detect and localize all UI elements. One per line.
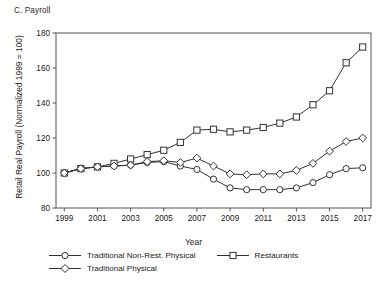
x-tick-label-1999: 1999 bbox=[55, 214, 74, 223]
chart-legend: Traditional Non-Rest. Physical Restauran… bbox=[48, 249, 378, 275]
data-point-diamond bbox=[243, 171, 251, 179]
data-point-square bbox=[244, 127, 250, 133]
data-point-diamond bbox=[309, 159, 317, 167]
series-line-restaurants bbox=[64, 47, 362, 173]
data-point-square bbox=[277, 120, 283, 126]
data-point-diamond bbox=[359, 134, 367, 142]
data-point-square bbox=[144, 152, 150, 158]
data-point-diamond bbox=[193, 154, 201, 162]
x-tick-label-2001: 2001 bbox=[88, 214, 107, 223]
x-tick-label-2007: 2007 bbox=[188, 214, 207, 223]
data-point-square bbox=[293, 114, 299, 120]
y-tick-label-140: 140 bbox=[36, 99, 50, 108]
data-point-square bbox=[177, 139, 183, 145]
x-tick-label-2013: 2013 bbox=[287, 214, 306, 223]
data-point-square bbox=[210, 126, 216, 132]
data-point-diamond bbox=[292, 166, 300, 174]
square-marker-icon bbox=[216, 250, 250, 261]
data-point-circle bbox=[244, 187, 250, 193]
data-point-circle bbox=[343, 166, 349, 172]
x-tick-label-2003: 2003 bbox=[121, 214, 140, 223]
data-point-diamond bbox=[259, 170, 267, 178]
y-tick-label-80: 80 bbox=[41, 204, 51, 213]
data-point-circle bbox=[326, 172, 332, 178]
data-point-square bbox=[326, 88, 332, 94]
x-tick-label-2005: 2005 bbox=[155, 214, 174, 223]
y-tick-label-160: 160 bbox=[36, 64, 50, 73]
data-point-diamond bbox=[226, 170, 234, 178]
data-point-square bbox=[194, 127, 200, 133]
legend-row-1: Traditional Non-Rest. Physical Restauran… bbox=[48, 249, 378, 262]
data-point-square bbox=[161, 147, 167, 153]
x-tick-label-2017: 2017 bbox=[354, 214, 373, 223]
legend-item-restaurants: Restaurants bbox=[216, 250, 299, 261]
data-point-diamond bbox=[326, 147, 334, 155]
data-point-circle bbox=[293, 185, 299, 191]
data-point-circle bbox=[260, 187, 266, 193]
data-point-diamond bbox=[276, 170, 284, 178]
x-axis-label: Year bbox=[0, 237, 387, 247]
circle-marker-icon bbox=[48, 250, 82, 261]
chart-figure: C. Payroll Retail Real Payroll (Normaliz… bbox=[0, 0, 387, 289]
legend-label-restaurants: Restaurants bbox=[255, 251, 299, 260]
y-tick-label-100: 100 bbox=[36, 169, 50, 178]
legend-label-traditional-physical: Traditional Physical bbox=[87, 264, 157, 273]
data-point-diamond bbox=[210, 162, 218, 170]
x-tick-label-2015: 2015 bbox=[320, 214, 339, 223]
data-point-diamond bbox=[342, 138, 350, 146]
legend-row-2: Traditional Physical bbox=[48, 262, 378, 275]
data-point-square bbox=[310, 102, 316, 108]
data-point-circle bbox=[210, 176, 216, 182]
y-tick-label-120: 120 bbox=[36, 134, 50, 143]
data-point-circle bbox=[227, 185, 233, 191]
x-tick-label-2009: 2009 bbox=[221, 214, 240, 223]
data-point-square bbox=[260, 124, 266, 130]
data-point-circle bbox=[277, 187, 283, 193]
legend-item-traditional-non-rest-physical: Traditional Non-Rest. Physical bbox=[48, 250, 196, 261]
data-point-circle bbox=[194, 166, 200, 172]
diamond-marker-icon bbox=[48, 263, 82, 274]
data-point-square bbox=[343, 60, 349, 66]
legend-label-traditional-non-rest-physical: Traditional Non-Rest. Physical bbox=[87, 251, 196, 260]
data-point-circle bbox=[360, 165, 366, 171]
series-traditional-physical bbox=[60, 134, 366, 179]
legend-item-traditional-physical: Traditional Physical bbox=[48, 263, 157, 274]
y-tick-label-180: 180 bbox=[36, 29, 50, 38]
data-point-square bbox=[227, 129, 233, 135]
data-point-square bbox=[360, 44, 366, 50]
x-tick-label-2011: 2011 bbox=[254, 214, 272, 223]
data-point-circle bbox=[310, 180, 316, 186]
series-restaurants bbox=[61, 44, 366, 176]
